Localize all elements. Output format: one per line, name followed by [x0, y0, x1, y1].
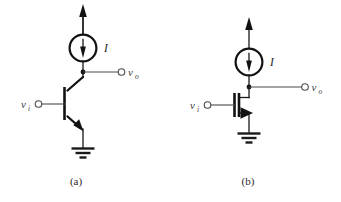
circuit-b-output-label: v — [312, 81, 317, 93]
circuit-diagram-canvas: v o v i — [0, 0, 341, 202]
circuit-a-current-source — [70, 35, 97, 62]
circuit-a-collector-lead — [68, 77, 84, 91]
circuit-a-caption: (a) — [70, 175, 83, 188]
circuit-b-current-source — [236, 49, 263, 76]
circuit-b-supply-arrow-up-icon — [245, 17, 253, 48]
circuit-b-group: I v o v i — [190, 17, 323, 188]
circuit-b-ground-icon — [238, 134, 261, 143]
circuit-a-ground-icon — [72, 149, 95, 158]
circuit-b-input-label: v — [190, 99, 195, 111]
circuit-a-emitter-lead-arrow-icon — [68, 117, 84, 132]
circuit-b-output-subscript: o — [319, 87, 323, 96]
circuit-a-input-label: v — [21, 98, 26, 110]
circuit-b-source-label: I — [269, 56, 275, 68]
circuit-a-input-terminal[interactable] — [35, 101, 42, 108]
circuit-a-output-label: v — [128, 66, 133, 78]
circuit-a-source-label: I — [103, 42, 109, 54]
circuit-a-input-subscript: i — [28, 104, 30, 113]
circuit-a-output-subscript: o — [135, 72, 139, 81]
circuit-b-input-terminal[interactable] — [204, 102, 211, 109]
circuit-b-caption: (b) — [242, 175, 255, 188]
circuit-b-output-terminal[interactable] — [302, 84, 309, 91]
circuit-b-source-lead-arrow-icon — [239, 107, 253, 119]
circuit-a-group: v o v i — [21, 4, 139, 188]
circuit-b-input-subscript: i — [197, 105, 199, 114]
figure-root: v o v i — [0, 0, 341, 202]
circuit-a-output-terminal[interactable] — [118, 69, 125, 76]
